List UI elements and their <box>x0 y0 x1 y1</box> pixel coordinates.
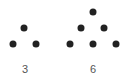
dot <box>67 41 74 48</box>
dot <box>90 41 97 48</box>
group-label: 6 <box>90 64 96 75</box>
dot <box>101 25 108 32</box>
dot <box>113 41 120 48</box>
dot <box>78 25 85 32</box>
triangle-group-6: 6 <box>0 0 125 79</box>
dot <box>90 9 97 16</box>
